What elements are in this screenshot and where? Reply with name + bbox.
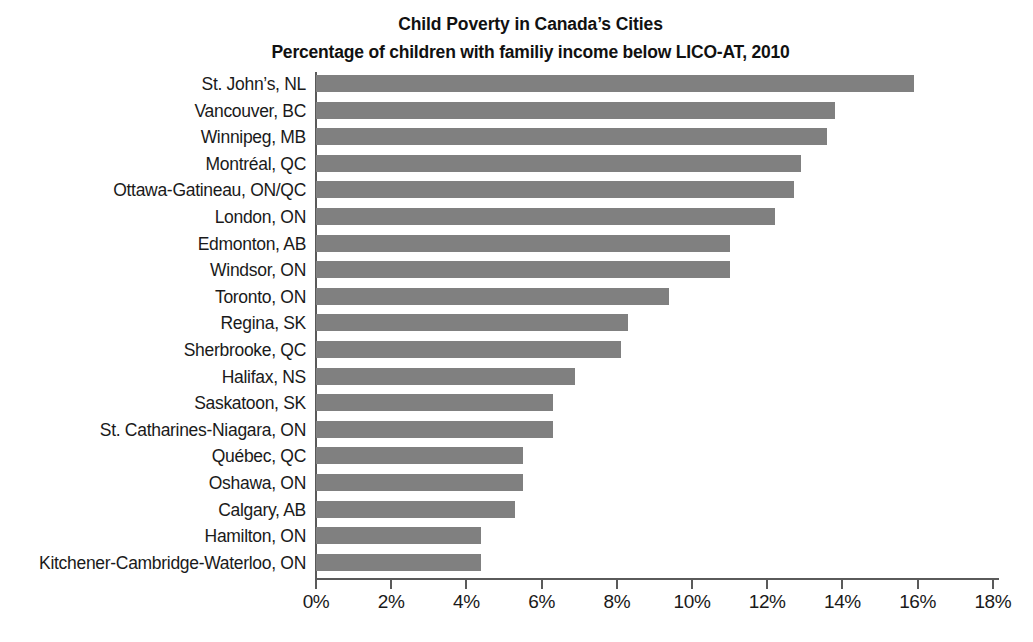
bar [316, 208, 775, 225]
bar-row: Vancouver, BC [0, 99, 1033, 126]
bar [316, 181, 794, 198]
bar-row: Hamilton, ON [0, 524, 1033, 551]
bar [316, 474, 523, 491]
x-tick-label: 6% [528, 591, 555, 613]
bar [316, 235, 730, 252]
bar-row: London, ON [0, 205, 1033, 232]
x-tick-mark [691, 580, 693, 589]
bar [316, 128, 827, 145]
x-tick-label: 12% [749, 591, 786, 613]
bar [316, 341, 621, 358]
bar-row: Windsor, ON [0, 258, 1033, 285]
bar-row: Sherbrooke, QC [0, 338, 1033, 365]
bar-row: Montréal, QC [0, 152, 1033, 179]
x-tick-mark [766, 580, 768, 589]
category-label: Oshawa, ON [209, 471, 306, 498]
x-axis-ticks: 0%2%4%6%8%10%12%14%16%18% [0, 580, 1033, 625]
bar-row: Québec, QC [0, 444, 1033, 471]
category-label: Québec, QC [212, 444, 306, 471]
bar [316, 501, 515, 518]
category-label: Montréal, QC [206, 152, 306, 179]
x-tick-label: 4% [453, 591, 480, 613]
bar-rows: St. John’s, NLVancouver, BCWinnipeg, MBM… [0, 72, 1033, 577]
category-label: Edmonton, AB [198, 232, 306, 259]
bar-row: Toronto, ON [0, 285, 1033, 312]
x-tick-label: 18% [974, 591, 1011, 613]
category-label: Sherbrooke, QC [184, 338, 306, 365]
bar-row: Oshawa, ON [0, 471, 1033, 498]
bar [316, 394, 553, 411]
category-label: Regina, SK [220, 311, 306, 338]
bar [316, 155, 801, 172]
category-label: Kitchener-Cambridge-Waterloo, ON [39, 551, 306, 578]
bar-row: St. John’s, NL [0, 72, 1033, 99]
bar [316, 554, 481, 571]
bar-row: Calgary, AB [0, 498, 1033, 525]
bar [316, 527, 481, 544]
x-tick-mark [541, 580, 543, 589]
x-tick-label: 14% [824, 591, 861, 613]
category-label: St. John’s, NL [202, 72, 306, 99]
x-tick-label: 16% [899, 591, 936, 613]
bar-row: Edmonton, AB [0, 232, 1033, 259]
bar [316, 421, 553, 438]
x-tick-mark [992, 580, 994, 589]
bar-row: Winnipeg, MB [0, 125, 1033, 152]
bar-row: Ottawa-Gatineau, ON/QC [0, 178, 1033, 205]
x-tick-label: 0% [303, 591, 330, 613]
bar-row: Kitchener-Cambridge-Waterloo, ON [0, 551, 1033, 578]
bar-row: Halifax, NS [0, 365, 1033, 392]
category-label: London, ON [215, 205, 306, 232]
bar-row: St. Catharines-Niagara, ON [0, 418, 1033, 445]
x-tick-label: 10% [674, 591, 711, 613]
category-label: Windsor, ON [210, 258, 306, 285]
x-tick-mark [315, 580, 317, 589]
category-label: Winnipeg, MB [201, 125, 306, 152]
bar-row: Saskatoon, SK [0, 391, 1033, 418]
x-tick-mark [841, 580, 843, 589]
bar [316, 261, 730, 278]
child-poverty-bar-chart: Child Poverty in Canada’s Cities Percent… [0, 0, 1033, 642]
bar [316, 102, 835, 119]
category-label: Calgary, AB [218, 498, 306, 525]
x-tick-mark [390, 580, 392, 589]
x-tick-label: 2% [378, 591, 405, 613]
x-tick-label: 8% [603, 591, 630, 613]
bar [316, 288, 669, 305]
bar-row: Regina, SK [0, 311, 1033, 338]
bar [316, 314, 628, 331]
category-label: Ottawa-Gatineau, ON/QC [113, 178, 306, 205]
category-label: Halifax, NS [222, 365, 306, 392]
category-label: Vancouver, BC [194, 99, 306, 126]
plot-area: St. John’s, NLVancouver, BCWinnipeg, MBM… [0, 0, 1033, 642]
x-tick-mark [616, 580, 618, 589]
x-tick-mark [465, 580, 467, 589]
category-label: Hamilton, ON [205, 524, 306, 551]
bar [316, 368, 575, 385]
category-label: Toronto, ON [215, 285, 306, 312]
category-label: Saskatoon, SK [194, 391, 306, 418]
bar [316, 447, 523, 464]
bar [316, 75, 914, 92]
x-tick-mark [917, 580, 919, 589]
category-label: St. Catharines-Niagara, ON [100, 418, 306, 445]
